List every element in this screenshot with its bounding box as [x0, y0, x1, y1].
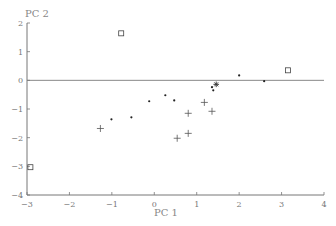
x-tick-label: −2	[64, 200, 76, 209]
plus-marker	[185, 110, 192, 117]
pca-scatter-chart: −3−2−101234210−1−2−3−4 PC 1 PC 2	[0, 0, 336, 226]
plus-marker	[208, 108, 215, 115]
x-tick-label: 1	[194, 200, 199, 209]
dot-marker	[164, 94, 166, 96]
x-tick-label: −3	[21, 200, 33, 209]
x-tick-label: −1	[106, 200, 118, 209]
x-tick-label: 3	[279, 200, 284, 209]
x-tick-label: 4	[321, 200, 326, 209]
dot-marker	[130, 116, 132, 118]
y-tick-label: −1	[11, 105, 23, 114]
y-tick-label: −4	[11, 191, 23, 200]
square-marker	[119, 31, 124, 36]
y-tick-label: 0	[18, 76, 23, 85]
x-axis-title: PC 1	[154, 207, 178, 218]
y-tick-label: −2	[11, 134, 23, 143]
plus-marker	[97, 125, 104, 132]
dot-marker	[212, 89, 214, 91]
y-tick-label: −3	[11, 162, 23, 171]
square-marker	[28, 165, 33, 170]
x-tick-label: 2	[237, 200, 242, 209]
dot-marker	[110, 118, 112, 120]
axes	[27, 23, 324, 195]
square-marker	[285, 68, 290, 73]
star-marker	[213, 82, 219, 88]
data-points	[28, 31, 291, 170]
plus-marker	[201, 99, 208, 106]
plus-marker	[174, 135, 181, 142]
dot-marker	[211, 86, 213, 88]
y-tick-label: 1	[18, 48, 23, 57]
dot-marker	[173, 99, 175, 101]
y-axis-title: PC 2	[25, 8, 49, 19]
y-tick-label: 2	[18, 19, 23, 28]
dot-marker	[148, 100, 150, 102]
plus-marker	[185, 130, 192, 137]
dot-marker	[263, 80, 265, 82]
dot-marker	[238, 74, 240, 76]
tick-labels: −3−2−101234210−1−2−3−4	[11, 19, 326, 209]
